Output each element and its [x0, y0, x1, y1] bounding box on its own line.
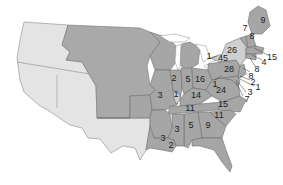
label-mississippi: 3	[174, 124, 179, 134]
label-maryland-leader: 7	[244, 94, 249, 104]
label-kentucky: 14	[191, 90, 201, 100]
label-georgia: 9	[205, 120, 210, 130]
label-illinois: 2	[171, 73, 176, 83]
label-indiana: 5	[185, 74, 190, 84]
label-maryland-dc: 1	[255, 82, 260, 92]
label-rhode-island: 4	[261, 57, 266, 67]
massachusetts	[246, 46, 264, 54]
label-massachusetts: 15	[267, 52, 277, 62]
us-map: 9 7 8 26 15 4 8 8 2 1 3 7 1 45 28 16 5 2…	[0, 0, 283, 185]
connecticut-ri	[246, 54, 256, 60]
label-vermont: 8	[249, 31, 254, 41]
label-illinois-south: 1	[173, 89, 178, 99]
label-michigan-a: 1	[206, 51, 211, 61]
label-arkansas: 3	[160, 133, 165, 143]
label-maine: 9	[260, 15, 265, 25]
label-south-carolina: 11	[214, 110, 223, 120]
label-tennessee: 11	[185, 103, 194, 113]
label-virginia-west: 1	[212, 79, 217, 89]
label-louisiana: 2	[168, 140, 173, 150]
label-alabama: 5	[188, 120, 193, 130]
label-connecticut: 8	[254, 64, 259, 74]
lake-michigan	[175, 44, 181, 70]
label-new-york: 26	[227, 45, 237, 55]
maine	[248, 6, 270, 34]
label-ohio: 16	[195, 74, 205, 84]
label-missouri: 3	[157, 90, 162, 100]
label-pennsylvania: 28	[224, 64, 234, 74]
label-new-hampshire: 7	[242, 23, 247, 33]
florida	[192, 138, 232, 172]
label-michigan-b: 45	[218, 53, 228, 63]
label-north-carolina: 15	[218, 99, 228, 109]
